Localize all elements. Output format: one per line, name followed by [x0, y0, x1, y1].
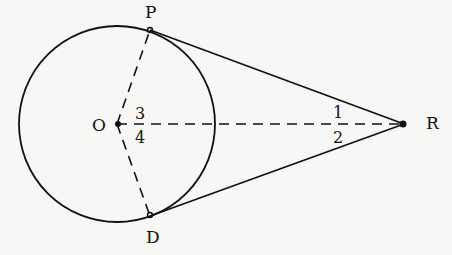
label-d: D [146, 227, 160, 247]
tangent-pr [150, 30, 404, 124]
label-r: R [426, 113, 440, 133]
label-o: O [92, 115, 106, 135]
point-o-dot [115, 121, 121, 127]
geometry-diagram: P D O R 3 4 1 2 [0, 0, 452, 255]
diagram-canvas: P D O R 3 4 1 2 [0, 0, 452, 255]
label-p: P [145, 2, 156, 22]
angle-2-label: 2 [333, 128, 343, 147]
angle-3-label: 3 [135, 104, 145, 123]
point-r-dot [400, 121, 407, 128]
angle-4-label: 4 [135, 128, 145, 147]
tangent-dr [150, 124, 404, 216]
angle-1-label: 1 [333, 103, 343, 122]
